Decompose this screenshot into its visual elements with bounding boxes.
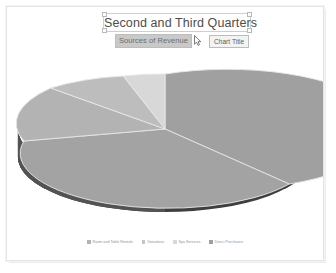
pie-chart-area[interactable]: [7, 47, 323, 222]
chart-legend[interactable]: Room and Table Rentals Donations Spa Ser…: [7, 240, 323, 244]
chart-frame[interactable]: Second and Third Quarters Sources of Rev…: [6, 6, 324, 261]
pie-chart-graphic[interactable]: [7, 47, 323, 222]
legend-label: Spa Services: [179, 240, 201, 244]
legend-item[interactable]: Direct Purchases: [209, 240, 243, 244]
chart-subtitle-row[interactable]: Sources of Revenue: [115, 34, 203, 48]
chart-title-tooltip: Chart Title: [209, 35, 249, 48]
resize-handle-top-right[interactable]: [247, 12, 252, 17]
resize-handle-bottom-left[interactable]: [102, 28, 107, 33]
move-cursor-icon: [194, 35, 203, 46]
resize-handle-bottom-right[interactable]: [247, 28, 252, 33]
legend-swatch-icon: [173, 240, 177, 244]
legend-swatch-icon: [142, 240, 146, 244]
legend-item[interactable]: Donations: [142, 240, 164, 244]
legend-swatch-icon: [209, 240, 213, 244]
resize-handle-top-left[interactable]: [102, 12, 107, 17]
chart-title-placeholder[interactable]: Second and Third Quarters: [103, 13, 251, 32]
legend-label: Donations: [147, 240, 164, 244]
chart-subtitle-selected-text[interactable]: Sources of Revenue: [115, 34, 192, 48]
legend-swatch-icon: [87, 240, 91, 244]
legend-label: Direct Purchases: [215, 240, 243, 244]
legend-item[interactable]: Spa Services: [173, 240, 200, 244]
page-title: Second and Third Quarters: [104, 16, 250, 30]
legend-item[interactable]: Room and Table Rentals: [87, 240, 133, 244]
legend-label: Room and Table Rentals: [93, 240, 133, 244]
